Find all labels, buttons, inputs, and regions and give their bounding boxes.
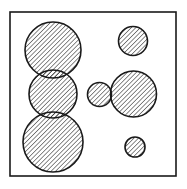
diagram-canvas — [0, 0, 187, 189]
circles-group — [23, 22, 157, 172]
